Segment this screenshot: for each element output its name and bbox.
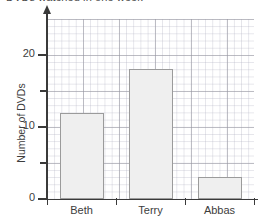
x-tick-0: [47, 198, 48, 205]
y-tick-label-20: 20: [23, 47, 35, 59]
bar-abbas: [198, 177, 242, 199]
chart-title: DVDs watched in one week: [6, 0, 256, 3]
x-category-label-terry: Terry: [138, 204, 162, 216]
x-category-label-beth: Beth: [70, 204, 93, 216]
bar-beth: [60, 113, 104, 199]
y-tick-minor-5: [40, 162, 47, 163]
y-tick-20: 20: [38, 54, 47, 55]
bar-terry: [129, 69, 173, 199]
y-axis-line: [46, 12, 48, 200]
y-tick-10: 10: [38, 126, 47, 127]
x-tick-2: [185, 198, 186, 205]
y-tick-label-10: 10: [23, 119, 35, 131]
y-axis-arrow-icon: [43, 5, 51, 14]
x-category-label-abbas: Abbas: [204, 204, 235, 216]
y-tick-minor-15: [40, 90, 47, 91]
y-tick-0: 0: [38, 198, 47, 199]
x-tick-3: [254, 198, 255, 205]
y-tick-label-0: 0: [29, 191, 35, 203]
x-tick-1: [116, 198, 117, 205]
